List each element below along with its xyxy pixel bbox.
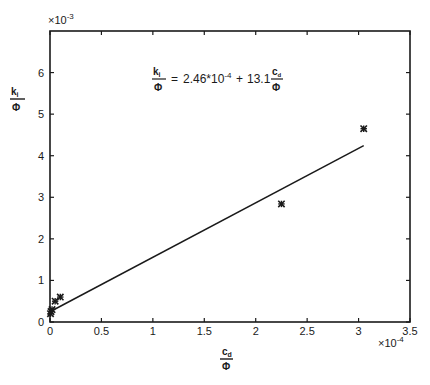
equation-annotation: ki Φ = 2.46*10-4 + 13.1 cd Φ xyxy=(152,66,283,93)
y-tick-label: 6 xyxy=(38,67,44,79)
svg-text:+: + xyxy=(236,72,243,86)
x-tick-label: 3 xyxy=(356,325,362,337)
x-axis-label: cd Φ xyxy=(220,346,233,372)
svg-text:2.46*10-4: 2.46*10-4 xyxy=(183,71,232,86)
data-point xyxy=(57,294,63,300)
data-point xyxy=(49,306,55,312)
x-ticks: 00.511.522.533.5 xyxy=(47,31,418,337)
y-multiplier: ×10-3 xyxy=(48,12,74,26)
x-tick-label: 2 xyxy=(253,325,259,337)
svg-text:Φ: Φ xyxy=(12,102,20,113)
y-axis-label: ki Φ xyxy=(10,86,25,113)
svg-text:Φ: Φ xyxy=(272,82,280,93)
svg-text:13.1: 13.1 xyxy=(247,72,271,86)
x-multiplier: ×10-4 xyxy=(378,335,404,349)
y-tick-label: 3 xyxy=(38,191,44,203)
x-tick-label: 0 xyxy=(47,325,53,337)
x-tick-label: 0.5 xyxy=(94,325,109,337)
svg-text:=: = xyxy=(171,72,178,86)
x-tick-label: 3.5 xyxy=(402,325,417,337)
y-tick-label: 0 xyxy=(38,316,44,328)
svg-text:Φ: Φ xyxy=(154,82,162,93)
svg-text:cd: cd xyxy=(272,66,282,78)
svg-text:cd: cd xyxy=(222,346,232,358)
x-tick-label: 1.5 xyxy=(197,325,212,337)
y-tick-label: 2 xyxy=(38,233,44,245)
data-point xyxy=(361,125,367,131)
chart: 00.511.522.533.5 0123456 ×10-3 ×10-4 ki … xyxy=(0,0,430,385)
fit-line-group xyxy=(50,146,364,312)
x-tick-label: 2.5 xyxy=(299,325,314,337)
svg-text:Φ: Φ xyxy=(222,361,230,372)
data-point xyxy=(278,201,284,207)
y-tick-label: 1 xyxy=(38,274,44,286)
y-tick-label: 5 xyxy=(38,108,44,120)
x-tick-label: 1 xyxy=(150,325,156,337)
fit-line xyxy=(50,146,364,312)
svg-text:ki: ki xyxy=(153,66,161,78)
svg-text:ki: ki xyxy=(11,86,19,98)
y-tick-label: 4 xyxy=(38,150,44,162)
